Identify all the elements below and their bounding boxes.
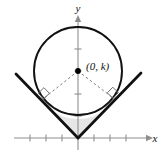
center-point-group: (0, k) xyxy=(75,60,109,74)
y-axis-arrowhead xyxy=(75,15,81,22)
center-point-marker xyxy=(75,68,81,74)
geometry-figure-container: x y xyxy=(0,0,164,155)
angle-ray-left xyxy=(16,74,78,138)
geometry-figure-svg: x y xyxy=(0,0,164,155)
radius-line-right xyxy=(78,71,113,98)
center-point-label: (0, k) xyxy=(86,60,110,73)
y-axis-label: y xyxy=(75,2,81,14)
x-axis-label: x xyxy=(152,132,158,144)
angle-ray-right xyxy=(78,73,141,138)
x-axis-group: x xyxy=(14,132,158,144)
